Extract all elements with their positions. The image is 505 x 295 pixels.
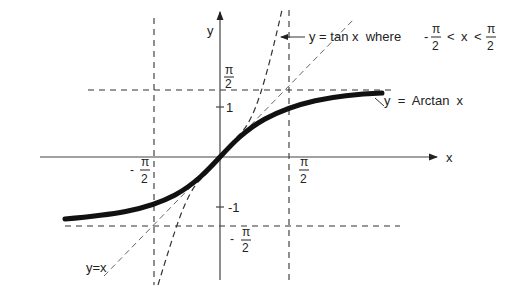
arctan-annotation: y = Arctan x: [384, 93, 464, 108]
arctan-curve: [65, 93, 382, 219]
denominator: 2: [225, 77, 232, 91]
x-label-neg-pi-over-2: - π 2: [130, 155, 150, 186]
denominator: 2: [432, 39, 439, 53]
y-axis-label: y: [207, 23, 214, 38]
x-label-pi-over-2: π 2: [299, 155, 309, 186]
y-tick-label-neg-1: -1: [228, 200, 240, 215]
arctan-annotation-arrow: [375, 98, 384, 106]
denominator: 2: [141, 172, 148, 186]
tan-annotation: y = tan x where - π 2 < x < π 2: [309, 22, 496, 53]
less-than: <: [447, 29, 455, 44]
pi-symbol: π: [242, 225, 250, 239]
pi-symbol: π: [141, 155, 149, 169]
identity-annotation: y=x: [86, 260, 107, 275]
x-var: x: [461, 29, 468, 44]
axes: [40, 12, 437, 280]
denominator: 2: [242, 241, 249, 255]
denominator: 2: [487, 39, 494, 53]
pi-symbol: π: [432, 22, 440, 36]
tan-label-text: y = tan x where: [309, 29, 401, 44]
minus-sign: -: [424, 29, 428, 44]
denominator: 2: [300, 172, 307, 186]
y-label-neg-pi-over-2: - π 2: [230, 225, 251, 255]
minus-sign: -: [230, 232, 234, 246]
pi-symbol: π: [487, 22, 495, 36]
pi-symbol: π: [225, 63, 233, 77]
arctan-chart: y x π 2 1 -1 - π 2 - π 2 π 2 y = tan x w…: [0, 0, 505, 295]
x-axis-label: x: [446, 150, 453, 165]
less-than: <: [474, 29, 482, 44]
y-label-pi-over-2: π 2: [224, 63, 234, 91]
minus-sign: -: [130, 163, 134, 177]
pi-symbol: π: [300, 155, 308, 169]
y-tick-label-1: 1: [226, 100, 233, 115]
